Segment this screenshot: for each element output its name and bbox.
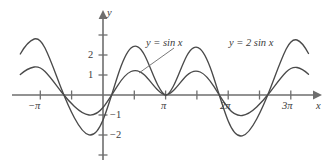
plot-canvas xyxy=(0,0,330,164)
sine-graph-figure: −π π 2π 3π 2 1 −1 −2 x y y = sin x y = 2… xyxy=(0,0,330,164)
sin-label-leader-line xyxy=(139,48,174,73)
curve-label-two-sin-x: y = 2 sin x xyxy=(229,38,273,49)
y-tick-label-2: 2 xyxy=(88,50,93,61)
curve-two-sin-x xyxy=(20,39,308,136)
x-axis-label: x xyxy=(316,101,321,112)
y-axis-label: y xyxy=(107,8,112,19)
y-tick-label-neg-2: −2 xyxy=(110,130,121,141)
y-tick-label-neg-1: −1 xyxy=(110,110,121,121)
y-tick-label-1: 1 xyxy=(88,70,93,81)
x-axis-arrow-icon xyxy=(313,91,322,100)
x-tick-label-three-pi: 3π xyxy=(282,101,293,112)
y-axis xyxy=(99,10,108,160)
x-tick-label-two-pi: 2π xyxy=(220,101,231,112)
x-tick-label-neg-pi: −π xyxy=(28,101,40,112)
x-tick-label-pi: π xyxy=(161,101,166,112)
curve-label-sin-x: y = sin x xyxy=(146,38,183,49)
